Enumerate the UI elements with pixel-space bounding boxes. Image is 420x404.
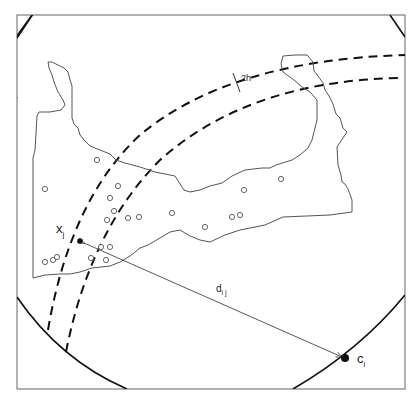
frame-border xyxy=(17,15,405,389)
point-ci xyxy=(341,354,349,362)
bandwidth-marker xyxy=(233,73,240,92)
diagram-canvas: 2h di j xj ci xyxy=(0,0,420,404)
point-xj-label: xj xyxy=(56,221,65,239)
distance-arrow xyxy=(84,243,342,357)
neighborhood-circle xyxy=(16,15,405,389)
point-ci-label: ci xyxy=(357,351,366,369)
distance-label: di j xyxy=(216,283,227,297)
study-region-polygon xyxy=(33,55,352,278)
point-xj xyxy=(77,238,83,244)
circle-arc-top-left xyxy=(17,14,33,38)
bandwidth-label: 2h xyxy=(241,73,251,83)
